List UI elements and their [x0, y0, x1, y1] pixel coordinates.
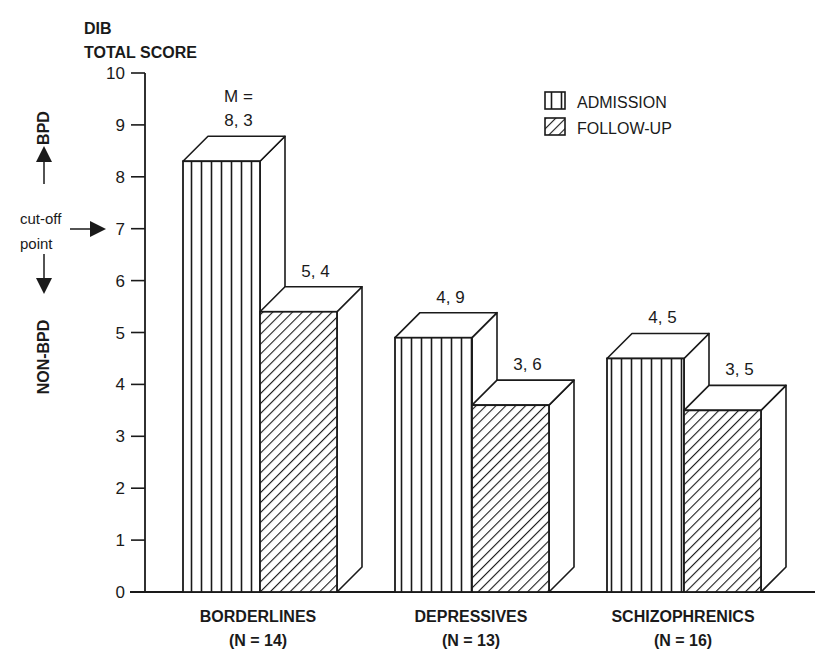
- non-bpd-arrow-head: [36, 278, 52, 294]
- category-label: SCHIZOPHRENICS: [611, 608, 754, 625]
- y-tick-label: 2: [116, 479, 125, 498]
- legend-swatch-follow-up: [545, 118, 565, 135]
- y-tick-label: 8: [116, 168, 125, 187]
- y-tick-label: 5: [116, 324, 125, 343]
- category-n-label: (N = 13): [442, 632, 500, 649]
- dib-score-chart: DIB TOTAL SCORE 012345678910 BPD cut-off…: [0, 0, 834, 666]
- bar-side-face: [761, 385, 786, 592]
- y-axis-title-line2: TOTAL SCORE: [84, 44, 197, 61]
- y-tick-label: 6: [116, 272, 125, 291]
- y-tick-label: 7: [116, 220, 125, 239]
- x-labels: BORDERLINES(N = 14)DEPRESSIVES(N = 13)SC…: [200, 608, 755, 649]
- category-n-label: (N = 16): [654, 632, 712, 649]
- bar-value-label: 4, 9: [436, 288, 464, 307]
- bar-value-prefix: M =: [224, 87, 253, 106]
- bar-front-face: [607, 358, 684, 592]
- y-tick-label: 3: [116, 427, 125, 446]
- y-tick-label: 10: [106, 64, 125, 83]
- bar-front-face: [472, 405, 549, 592]
- non-bpd-region-label: NON-BPD: [35, 320, 52, 395]
- y-ticks: 012345678910: [106, 64, 145, 602]
- bar-front-face: [183, 161, 260, 592]
- bar-value-label: 5, 4: [301, 262, 329, 281]
- bar-value-label: 3, 6: [513, 355, 541, 374]
- category-label: BORDERLINES: [200, 608, 317, 625]
- y-tick-label: 4: [116, 375, 125, 394]
- bar-side-face: [337, 287, 362, 592]
- bars: M =8, 35, 44, 93, 64, 53, 5: [183, 87, 786, 592]
- bar-value-label: 4, 5: [648, 308, 676, 327]
- legend-label-follow-up: FOLLOW-UP: [577, 120, 672, 137]
- bar-front-face: [395, 338, 472, 592]
- cutoff-arrow-head: [90, 221, 106, 237]
- legend-swatch-admission: [545, 92, 565, 109]
- y-tick-label: 9: [116, 116, 125, 135]
- bar-value-label: 3, 5: [725, 360, 753, 379]
- bar-follow-up-depressives: 3, 6: [472, 355, 574, 592]
- category-n-label: (N = 14): [229, 632, 287, 649]
- bar-value-label: 8, 3: [224, 111, 252, 130]
- bar-side-face: [549, 380, 574, 592]
- y-tick-label: 1: [116, 531, 125, 550]
- legend-label-admission: ADMISSION: [577, 94, 667, 111]
- legend: ADMISSION FOLLOW-UP: [545, 92, 672, 137]
- cutoff-label-line1: cut-off: [20, 210, 62, 227]
- category-label: DEPRESSIVES: [415, 608, 528, 625]
- bpd-region-label: BPD: [35, 111, 52, 145]
- bar-follow-up-schizophrenics: 3, 5: [684, 360, 786, 592]
- y-axis-title-line1: DIB: [84, 20, 112, 37]
- bpd-arrow-head: [36, 146, 52, 162]
- cutoff-label-line2: point: [20, 235, 53, 252]
- y-tick-label: 0: [116, 583, 125, 602]
- bar-front-face: [260, 312, 337, 592]
- bar-follow-up-borderlines: 5, 4: [260, 262, 362, 592]
- bar-front-face: [684, 410, 761, 592]
